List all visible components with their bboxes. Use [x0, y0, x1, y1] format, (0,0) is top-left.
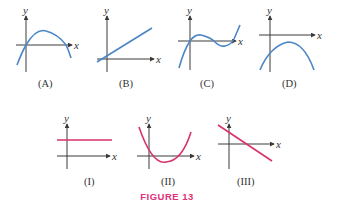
x-axis-label: x: [275, 138, 281, 150]
curve-d: [260, 42, 314, 70]
y-axis-label: y: [63, 112, 69, 124]
x-axis-label: x: [316, 29, 322, 41]
graph-iii: y x (III): [218, 112, 281, 188]
x-axis-label: x: [155, 53, 161, 65]
figure-caption: FIGURE 13: [140, 191, 194, 202]
panel-label-ii: (II): [161, 176, 175, 188]
x-axis-label: x: [73, 39, 79, 51]
curve-c: [179, 25, 240, 68]
graph-a: y x (A): [16, 4, 79, 90]
panel-label-d: (D): [282, 78, 297, 90]
graph-b: y x (B): [97, 4, 161, 90]
graph-ii: y x (II): [137, 112, 201, 188]
panel-label-c: (C): [200, 78, 215, 90]
graph-i: y x (I): [57, 112, 117, 188]
x-axis-label: x: [237, 35, 243, 47]
panel-label-a: (A): [38, 78, 53, 90]
y-axis-label: y: [103, 4, 109, 16]
x-axis-label: x: [195, 150, 201, 162]
curve-iii: [218, 125, 272, 161]
curve-b: [97, 28, 152, 62]
curve-a: [17, 31, 71, 65]
graph-d: y x (D): [259, 4, 322, 90]
figure-13: y x (A) y x (B) y x (C) y x (D) y x (I): [0, 0, 339, 211]
y-axis-label: y: [266, 4, 272, 16]
panel-label-i: (I): [84, 176, 95, 188]
x-axis-label: x: [111, 150, 117, 162]
panel-label-iii: (III): [237, 176, 255, 188]
y-axis-label: y: [22, 4, 28, 16]
graph-c: y x (C): [178, 4, 243, 90]
curve-ii: [139, 127, 191, 162]
panel-label-b: (B): [119, 78, 134, 90]
y-axis-label: y: [145, 112, 151, 124]
y-axis-label: y: [225, 112, 231, 124]
y-axis-label: y: [186, 4, 192, 16]
